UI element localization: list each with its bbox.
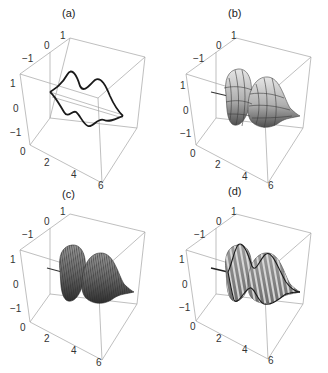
panel-c: (c) 1 0 −1 1 0 −1 0 2 4 6 — [0, 182, 164, 368]
plot-box — [166, 178, 328, 364]
tick-y-0: 0 — [216, 40, 222, 51]
tick-y-neg1: −1 — [22, 229, 33, 240]
panel-a: (a) 1 0 −1 1 0 −1 0 2 4 6 — [0, 0, 164, 186]
tick-x-0: 0 — [20, 322, 26, 333]
tick-z-1: 1 — [180, 80, 186, 91]
tick-z-neg1: −1 — [10, 303, 21, 314]
plot-box — [0, 0, 164, 186]
tick-z-0: 0 — [182, 279, 188, 290]
tick-z-0: 0 — [13, 103, 19, 114]
tick-x-0: 0 — [190, 148, 196, 159]
curve-lower — [50, 92, 123, 126]
tick-x-4: 4 — [242, 344, 248, 355]
tick-x-0: 0 — [190, 321, 196, 332]
tick-z-1: 1 — [10, 254, 16, 265]
tick-y-1: 1 — [231, 206, 237, 217]
tick-x-6: 6 — [96, 357, 102, 368]
tick-y-neg1: −1 — [194, 229, 205, 240]
tick-y-0: 0 — [216, 216, 222, 227]
tick-y-neg1: −1 — [193, 53, 204, 64]
curve-upper — [50, 71, 123, 116]
tick-x-2: 2 — [215, 159, 221, 170]
tick-y-neg1: −1 — [22, 53, 33, 64]
tick-x-4: 4 — [71, 169, 77, 180]
surface-lobe-2 — [248, 77, 300, 127]
tick-x-6: 6 — [268, 355, 274, 366]
tick-z-neg1: −1 — [179, 302, 190, 313]
plot-box — [0, 182, 164, 368]
tick-z-0: 0 — [13, 279, 19, 290]
tick-z-1: 1 — [10, 78, 16, 89]
tick-x-2: 2 — [216, 333, 222, 344]
tick-z-neg1: −1 — [180, 128, 191, 139]
tick-y-0: 0 — [44, 216, 50, 227]
tick-x-2: 2 — [44, 333, 50, 344]
tick-y-1: 1 — [60, 206, 66, 217]
tick-z-0: 0 — [183, 105, 189, 116]
tick-x-0: 0 — [20, 146, 26, 157]
tick-y-1: 1 — [60, 30, 66, 41]
tick-z-1: 1 — [179, 254, 185, 265]
tick-z-neg1: −1 — [10, 127, 21, 138]
panel-b: (b) — [166, 0, 328, 186]
tick-x-4: 4 — [71, 345, 77, 356]
tick-y-0: 0 — [44, 40, 50, 51]
tick-x-2: 2 — [44, 157, 50, 168]
panel-d: (d) 1 0 −1 1 0 −1 0 2 4 6 — [166, 178, 328, 364]
tick-y-1: 1 — [231, 30, 237, 41]
